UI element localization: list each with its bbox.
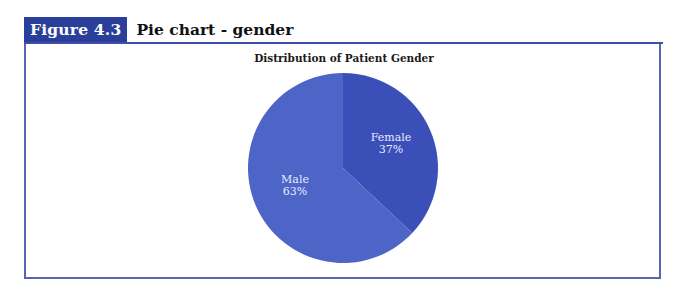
slice-label-male: Male63% [281,173,309,198]
chart-title: Distribution of Patient Gender [254,52,434,64]
pie-chart: Distribution of Patient Gender Female37%… [0,0,685,294]
pie-slices [248,73,438,263]
